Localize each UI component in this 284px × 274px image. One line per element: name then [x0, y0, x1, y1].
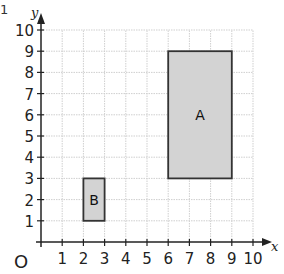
rectangle-a: A — [168, 51, 232, 178]
x-tick-label: 2 — [79, 250, 89, 268]
y-tick-label: 1 — [24, 213, 34, 231]
y-tick-label: 5 — [24, 128, 34, 146]
x-tick-label: 6 — [163, 250, 173, 268]
rectangle-b: B — [83, 178, 104, 220]
x-tick-label: 8 — [206, 250, 216, 268]
y-tick-label: 8 — [24, 64, 34, 82]
x-tick-label: 7 — [185, 250, 195, 268]
x-tick-label: 1 — [57, 250, 67, 268]
question-number: 1 — [0, 2, 8, 17]
axes — [36, 13, 272, 247]
y-tick-label: 4 — [24, 149, 34, 167]
y-tick-label: 7 — [24, 86, 34, 104]
x-tick-label: 3 — [100, 250, 110, 268]
y-tick-label: 2 — [24, 192, 34, 210]
x-axis-label: x — [271, 239, 279, 254]
shapes: AB — [83, 51, 231, 221]
coordinate-grid-diagram: AB 1234567891012345678910 1 y x O — [0, 0, 284, 274]
y-tick-label: 3 — [24, 170, 34, 188]
y-tick-label: 6 — [24, 107, 34, 125]
x-tick-label: 4 — [121, 250, 131, 268]
x-tick-label: 10 — [243, 250, 262, 268]
x-tick-label: 9 — [227, 250, 237, 268]
rectangle-label: B — [89, 192, 99, 208]
y-tick-label: 10 — [15, 22, 34, 40]
y-tick-label: 9 — [24, 43, 34, 61]
x-tick-label: 5 — [142, 250, 152, 268]
rectangle-label: A — [195, 107, 205, 123]
origin-label: O — [14, 251, 28, 272]
y-axis-label: y — [30, 5, 39, 20]
